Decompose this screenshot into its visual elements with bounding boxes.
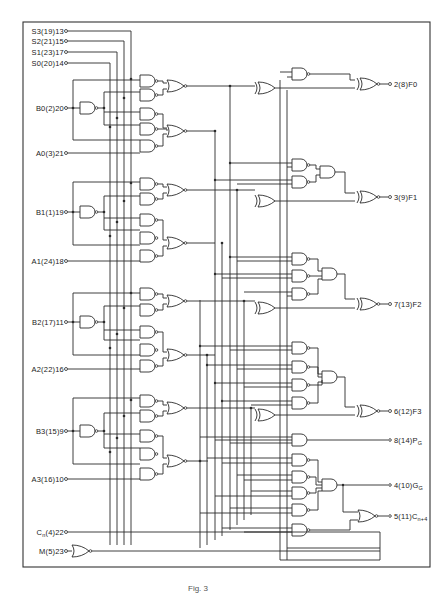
input-label-cn: Cn(4)22: [37, 528, 64, 540]
input-label-s2: S2(21)15: [32, 37, 64, 46]
input-label-b3: B3(15)9: [36, 427, 64, 436]
input-label-a0: A0(3)21: [36, 149, 64, 158]
carry-lookahead-f1: [292, 159, 355, 193]
input-label-a1: A1(24)18: [32, 257, 64, 266]
input-label-s1: S1(23)17: [32, 48, 64, 57]
bit-slice-3: [65, 395, 256, 481]
bit-slice-1: [65, 178, 256, 263]
carry-lookahead-f3: [292, 342, 355, 409]
output-xnors: [357, 78, 392, 417]
output-label-f2: 7(13)F2: [394, 300, 422, 309]
lookahead-fanin: [199, 72, 380, 560]
output-label-cn4: 5(11)Cn+4: [394, 512, 428, 524]
bit-slice-0: [65, 75, 256, 155]
input-label-a3: A3(16)10: [32, 475, 64, 484]
input-label-s3: S3(19)13: [32, 27, 64, 36]
output-label-f1: 3(9)F1: [394, 193, 417, 202]
input-label-a2: A2(22)16: [32, 365, 64, 374]
carry-bus: [199, 80, 287, 560]
figure-caption: Fig. 3: [188, 584, 208, 593]
carry-lookahead-f2: [292, 253, 355, 300]
group-carry-logic: [200, 434, 391, 536]
input-label-m: M(5)23: [39, 547, 64, 556]
output-label-f3: 6(12)F3: [394, 407, 422, 416]
output-label-f0: 2(8)F0: [394, 80, 417, 89]
select-lines: [65, 30, 132, 546]
sum-xor-stage: [255, 82, 355, 421]
output-label-pg: 8(14)PG: [394, 436, 422, 448]
input-label-b1: B1(1)19: [36, 208, 64, 217]
input-label-b2: B2(17)11: [32, 318, 64, 327]
carry-lookahead-f0: [292, 68, 355, 80]
input-label-s0: S0(20)14: [32, 59, 64, 68]
input-label-b0: B0(2)20: [36, 104, 64, 113]
bit-slice-2: [65, 288, 256, 372]
output-label-gg: 4(10)GG: [394, 481, 423, 493]
